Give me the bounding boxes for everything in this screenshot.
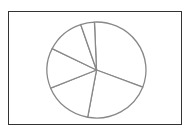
pie-chart — [0, 0, 193, 133]
